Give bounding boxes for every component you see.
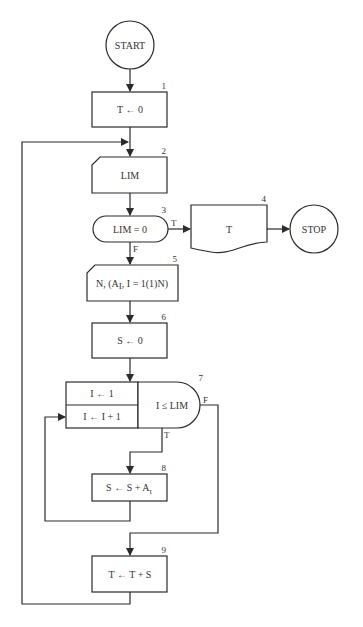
- node-7-init: I ← 1: [90, 388, 113, 399]
- node-1-label: T ← 0: [117, 104, 143, 115]
- node-4-number: 4: [262, 194, 267, 204]
- stop-terminal: STOP: [290, 205, 338, 253]
- node-2-number: 2: [162, 146, 167, 156]
- node-6-label: S ← 0: [117, 335, 143, 346]
- stop-label: STOP: [302, 224, 327, 235]
- node-4-label: T: [226, 224, 232, 235]
- edge-9-to-2-loop: [22, 142, 130, 604]
- node-3-decision: 3 LIM = 0 T F: [93, 205, 177, 254]
- node-7-false-label: F: [203, 395, 208, 405]
- node-6-number: 6: [162, 312, 167, 322]
- node-7-number: 7: [199, 373, 204, 383]
- node-7-increment: I ← I + 1: [83, 411, 120, 422]
- node-7-test: I ≤ LIM: [156, 400, 188, 411]
- node-7-true-label: T: [164, 430, 170, 440]
- node-3-label: LIM = 0: [113, 224, 147, 235]
- edge-8-to-7-loop: [45, 417, 130, 521]
- start-terminal: START: [106, 21, 154, 69]
- node-3-number: 3: [162, 205, 167, 215]
- node-4-document: 4 T: [191, 194, 267, 253]
- node-9-label: T ← T + S: [109, 569, 152, 580]
- node-7-loop: 7 I ← 1 I ← I + 1 I ≤ LIM F T: [66, 373, 208, 440]
- node-9-number: 9: [162, 545, 167, 555]
- edge-7-to-8: [130, 428, 162, 473]
- start-label: START: [115, 40, 145, 51]
- node-5-number: 5: [173, 254, 178, 264]
- node-3-true-label: T: [171, 218, 177, 228]
- node-5-input: 5 N, (AI, I = 1(1)N): [87, 254, 178, 301]
- node-1-number: 1: [162, 81, 167, 91]
- node-2-label: LIM: [121, 170, 139, 181]
- node-3-false-label: F: [133, 244, 138, 254]
- flowchart: START 1 T ← 0 2 LIM 3 LIM = 0 T F 4 T S: [0, 0, 363, 627]
- node-8-number: 8: [162, 463, 167, 473]
